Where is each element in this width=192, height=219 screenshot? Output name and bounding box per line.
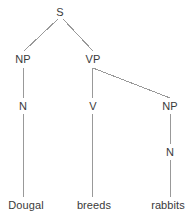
terminal-word-w2: breeds	[77, 200, 111, 211]
tree-node-np1: NP	[15, 54, 30, 65]
terminal-word-w3: rabbits	[151, 200, 185, 211]
syntax-tree-diagram: SNPVPNVNPNDougalbreedsrabbits	[0, 0, 192, 219]
tree-node-v: V	[89, 101, 96, 112]
terminal-word-w1: Dougal	[8, 200, 43, 211]
tree-node-np2: NP	[162, 101, 177, 112]
tree-node-n1: N	[19, 101, 27, 112]
tree-node-s: S	[56, 7, 63, 18]
tree-edge-vp-to-np2	[93, 68, 170, 98]
tree-edge-s-to-vp	[63, 19, 93, 51]
tree-node-vp: VP	[86, 54, 101, 65]
tree-node-n2: N	[166, 147, 174, 158]
tree-edge-s-to-np1	[24, 19, 58, 51]
